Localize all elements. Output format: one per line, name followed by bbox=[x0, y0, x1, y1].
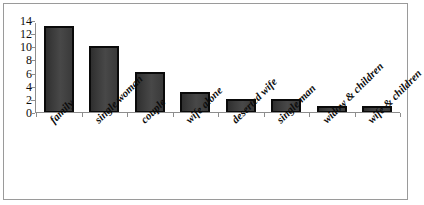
x-tick-mark bbox=[309, 113, 310, 117]
x-tick-mark bbox=[36, 113, 37, 117]
y-tick-mark bbox=[31, 87, 35, 88]
x-tick-mark bbox=[127, 113, 128, 117]
y-axis: 02468101214 bbox=[12, 17, 32, 115]
y-tick-mark bbox=[31, 21, 35, 22]
x-tick-mark bbox=[400, 113, 401, 117]
x-tick-mark bbox=[173, 113, 174, 117]
y-tick-mark bbox=[31, 100, 35, 101]
y-tick-label: 2 bbox=[12, 94, 32, 106]
x-axis: familysingle womancouplewife alonedesert… bbox=[36, 117, 400, 199]
y-tick-label: 0 bbox=[12, 107, 32, 119]
y-tick-mark bbox=[31, 74, 35, 75]
y-tick-label: 14 bbox=[12, 15, 32, 27]
bar-chart: 02468101214 familysingle womancouplewife… bbox=[4, 4, 409, 201]
y-tick-label: 4 bbox=[12, 81, 32, 93]
y-tick-mark bbox=[31, 60, 35, 61]
x-tick-mark bbox=[82, 113, 83, 117]
y-tick-label: 12 bbox=[12, 28, 32, 40]
y-tick-mark bbox=[31, 47, 35, 48]
x-tick-mark bbox=[264, 113, 265, 117]
y-tick-mark bbox=[31, 113, 35, 114]
x-tick-mark bbox=[355, 113, 356, 117]
x-tick-mark bbox=[218, 113, 219, 117]
chart-frame: 02468101214 familysingle womancouplewife… bbox=[3, 3, 408, 200]
y-tick-label: 8 bbox=[12, 54, 32, 66]
y-tick-label: 10 bbox=[12, 41, 32, 53]
y-tick-label: 6 bbox=[12, 68, 32, 80]
y-tick-mark bbox=[31, 34, 35, 35]
